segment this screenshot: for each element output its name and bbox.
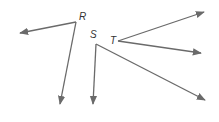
angle-r: R <box>20 11 86 104</box>
ray-s-1 <box>93 44 96 104</box>
ray-r-2 <box>60 22 76 104</box>
vertex-label-r: R <box>79 11 86 22</box>
angle-s: S <box>90 29 205 104</box>
ray-r-1 <box>20 22 76 33</box>
vertex-label-s: S <box>90 29 97 40</box>
angle-t: T <box>110 12 204 53</box>
ray-t-1 <box>118 12 204 41</box>
vertex-label-t: T <box>110 35 117 46</box>
ray-s-2 <box>96 44 205 100</box>
angles-diagram: RST <box>0 0 219 122</box>
ray-t-2 <box>118 41 201 53</box>
